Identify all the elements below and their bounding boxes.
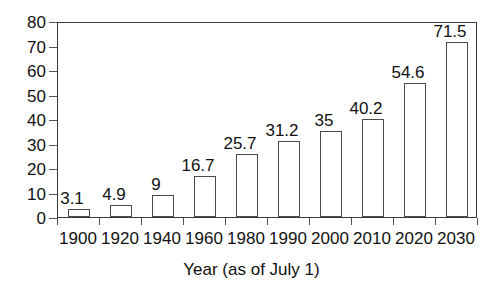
bar-2000 [320, 131, 342, 217]
bar-1920 [110, 205, 132, 217]
y-tick-mark [49, 218, 57, 219]
y-tick-label: 0 [0, 210, 46, 227]
x-tick-mark [351, 218, 352, 225]
y-tick-mark [49, 169, 57, 170]
x-axis-title: Year (as of July 1) [0, 260, 503, 280]
y-tick-mark [49, 47, 57, 48]
bar-1900 [68, 209, 90, 217]
x-tick-mark [267, 218, 268, 225]
bar-2010 [362, 119, 384, 217]
bar-2020 [404, 83, 426, 217]
value-label-2020: 54.6 [378, 64, 438, 81]
x-tick-mark [57, 218, 58, 225]
value-label-1960: 16.7 [168, 157, 228, 174]
y-tick-label: 40 [0, 112, 46, 129]
y-tick-label: 70 [0, 39, 46, 56]
y-tick-label: 10 [0, 186, 46, 203]
x-tick-label-2030: 2030 [426, 229, 486, 248]
y-axis-label-group: 80 70 60 50 40 30 20 10 0 [0, 0, 46, 296]
y-tick-label: 20 [0, 161, 46, 178]
value-label-2030: 71.5 [420, 23, 480, 40]
x-tick-mark [435, 218, 436, 225]
bar-chart: 80 70 60 50 40 30 20 10 0 [0, 0, 503, 296]
value-label-2010: 40.2 [336, 100, 396, 117]
x-tick-mark [99, 218, 100, 225]
y-tick-mark [49, 96, 57, 97]
x-tick-mark [393, 218, 394, 225]
bar-1990 [278, 141, 300, 217]
bar-1940 [152, 195, 174, 217]
bar-1980 [236, 154, 258, 217]
y-tick-label: 30 [0, 137, 46, 154]
y-tick-label: 80 [0, 14, 46, 31]
value-label-1940: 9 [126, 176, 186, 193]
x-tick-mark [225, 218, 226, 225]
x-tick-mark [309, 218, 310, 225]
bar-1960 [194, 176, 216, 217]
bar-2030 [446, 42, 468, 217]
x-tick-mark [183, 218, 184, 225]
x-tick-mark [141, 218, 142, 225]
y-tick-mark [49, 71, 57, 72]
y-tick-mark [49, 22, 57, 23]
y-tick-label: 50 [0, 88, 46, 105]
y-tick-mark [49, 145, 57, 146]
y-tick-mark [49, 120, 57, 121]
x-tick-mark [477, 218, 478, 225]
y-tick-label: 60 [0, 63, 46, 80]
